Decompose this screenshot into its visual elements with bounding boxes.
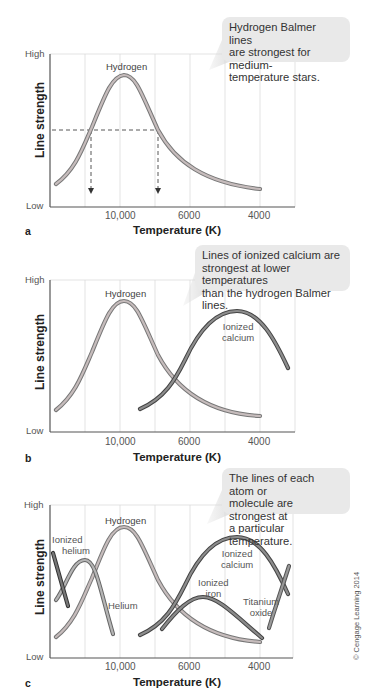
panel-letter-a: a [25, 225, 31, 237]
x-tick-10000: 10,000 [105, 661, 136, 672]
label-line: calcium [221, 559, 253, 570]
x-tick-4000: 4000 [248, 661, 270, 672]
hydrogen-curve [56, 75, 260, 189]
curve-label-hydrogen: Hydrogen [106, 61, 147, 72]
dashed-guide [52, 130, 158, 188]
label-line: iron [198, 588, 229, 599]
curve-label-titanium-oxide: Titanium oxide [243, 596, 279, 618]
callout-line: Hydrogen Balmer lines [229, 21, 342, 46]
callout-line: The lines of each atom or [229, 472, 342, 497]
curve-label-ionized-helium: Ionized helium [52, 534, 90, 556]
callout-line: temperature stars. [229, 71, 342, 84]
x-tick-4000: 4000 [248, 210, 270, 221]
y-axis-label: Line strength [33, 314, 47, 390]
label-line: Ionized [52, 534, 90, 545]
arrow-down-icon [155, 188, 161, 194]
label-line: helium [52, 545, 90, 556]
callout-line: strongest at lower temperatures [202, 262, 342, 287]
label-line: Ionized [222, 321, 254, 332]
label-line: Ionized [221, 548, 253, 559]
y-axis-label: Line strength [33, 539, 47, 615]
x-tick-10000: 10,000 [105, 210, 136, 221]
callout-panel-b: Lines of ionized calcium are strongest a… [195, 245, 350, 291]
curve-label-hydrogen: Hydrogen [105, 288, 146, 299]
arrow-down-icon [88, 188, 94, 194]
curve-label-ionized-iron: Ionized iron [198, 577, 229, 599]
callout-panel-c: The lines of each atom or molecule are s… [222, 468, 350, 514]
callout-line: molecule are strongest at [229, 497, 342, 522]
y-high-label: High [25, 48, 45, 59]
callout-line: than the hydrogen Balmer lines. [202, 287, 342, 312]
x-tick-6000: 6000 [178, 210, 200, 221]
x-axis-label: Temperature (K) [133, 451, 221, 463]
y-high-label: High [25, 274, 45, 285]
x-tick-10000: 10,000 [105, 436, 136, 447]
x-axis-label: Temperature (K) [133, 224, 221, 236]
callout-line: a particular temperature. [229, 522, 342, 547]
label-line: Ionized [198, 577, 229, 588]
y-axis-label: Line strength [33, 82, 47, 158]
y-high-label: High [24, 499, 44, 510]
panel-letter-c: c [25, 677, 31, 689]
curve-label-ionized-calcium: Ionized calcium [221, 548, 253, 570]
x-tick-4000: 4000 [248, 436, 270, 447]
label-line: oxide [243, 607, 279, 618]
figure-canvas [0, 0, 376, 689]
y-low-label: Low [26, 425, 43, 436]
curve-label-ionized-calcium: Ionized calcium [222, 321, 254, 343]
callout-line: Lines of ionized calcium are [202, 249, 342, 262]
label-line: calcium [222, 332, 254, 343]
callout-line: are strongest for medium- [229, 46, 342, 71]
callout-panel-a: Hydrogen Balmer lines are strongest for … [222, 17, 350, 62]
curve-label-helium: Helium [108, 600, 138, 611]
x-axis-label: Temperature (K) [133, 676, 221, 688]
copyright-notice: © Cengage Learning 2014 [352, 572, 361, 660]
y-low-label: Low [26, 651, 43, 662]
x-tick-6000: 6000 [178, 661, 200, 672]
x-tick-6000: 6000 [178, 436, 200, 447]
label-line: Titanium [243, 596, 279, 607]
curve-label-hydrogen: Hydrogen [105, 515, 146, 526]
panel-letter-b: b [25, 452, 31, 464]
y-low-label: Low [26, 200, 43, 211]
